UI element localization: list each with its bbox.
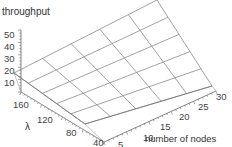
- nodes-axis-tick: [176, 109, 177, 111]
- mesh-line: [43, 58, 111, 116]
- lambda-axis-tick: [79, 127, 80, 129]
- lambda-axis-tick: [34, 100, 35, 102]
- lambda-tick: 120: [37, 115, 53, 125]
- mesh-line: [128, 15, 186, 94]
- surface-edge: [85, 86, 212, 124]
- nodes-axis-tick: [140, 126, 141, 128]
- nodes-axis-label: number of nodes: [145, 134, 216, 144]
- z-tick: 30: [4, 54, 15, 64]
- lambda-axis-tick: [90, 134, 91, 136]
- z-tick: 50: [4, 30, 15, 40]
- lambda-tick: 80: [66, 128, 77, 138]
- lambda-axis-tick: [38, 102, 39, 104]
- lambda-axis-tick: [69, 121, 70, 123]
- floor-edge: [21, 92, 104, 142]
- lambda-axis-tick: [58, 115, 59, 117]
- nodes-tick: 15: [160, 122, 171, 132]
- nodes-axis-tick: [153, 120, 154, 122]
- nodes-axis-tick: [207, 95, 208, 97]
- z-tick: 20: [4, 66, 15, 76]
- nodes-axis-tick: [104, 142, 105, 145]
- z-tick: 40: [4, 42, 15, 52]
- lambda-axis-tick: [61, 117, 62, 120]
- lambda-axis-tick: [55, 113, 56, 115]
- nodes-axis-tick: [212, 93, 213, 95]
- lambda-axis-tick: [51, 111, 52, 113]
- mesh-line: [100, 29, 161, 101]
- nodes-axis-tick: [158, 118, 159, 120]
- nodes-tick: 30: [216, 92, 227, 102]
- nodes-axis-tick: [185, 105, 186, 107]
- z-axis-label: throughput: [2, 7, 50, 17]
- nodes-tick: 5: [118, 140, 123, 147]
- nodes-axis-tick: [113, 138, 114, 140]
- lambda-axis-tick: [41, 105, 42, 108]
- mesh-line: [157, 0, 212, 86]
- nodes-axis-tick: [162, 115, 163, 117]
- z-tick: 10: [4, 78, 15, 88]
- nodes-axis-tick: [126, 132, 127, 135]
- lambda-axis-tick: [82, 130, 83, 133]
- lambda-tick: 40: [93, 138, 104, 147]
- lambda-axis-tick: [86, 132, 87, 134]
- lambda-tick: 160: [13, 100, 29, 110]
- nodes-axis-tick: [131, 130, 132, 132]
- nodes-axis-tick: [144, 124, 145, 126]
- nodes-tick: 25: [198, 102, 209, 112]
- nodes-axis-tick: [122, 134, 123, 136]
- nodes-axis-tick: [171, 111, 172, 114]
- nodes-axis-tick: [108, 140, 109, 142]
- lambda-axis-tick: [45, 107, 46, 109]
- lambda-axis-label: λ: [25, 122, 30, 132]
- lambda-axis-tick: [48, 109, 49, 111]
- nodes-axis-tick: [135, 128, 136, 130]
- nodes-axis-tick: [194, 101, 195, 104]
- surface-plot: [0, 0, 232, 147]
- nodes-axis-tick: [203, 97, 204, 99]
- nodes-axis-tick: [189, 103, 190, 105]
- lambda-axis-tick: [24, 94, 25, 96]
- nodes-axis-tick: [180, 107, 181, 109]
- nodes-tick: 20: [179, 112, 190, 122]
- lambda-axis-tick: [20, 92, 21, 95]
- lambda-axis-tick: [65, 119, 66, 121]
- nodes-axis-tick: [149, 122, 150, 125]
- lambda-axis-tick: [27, 96, 28, 98]
- lambda-axis-tick: [72, 123, 73, 125]
- mesh-line: [28, 17, 168, 83]
- lambda-axis-tick: [31, 98, 32, 100]
- nodes-axis-tick: [167, 113, 168, 115]
- nodes-axis-tick: [117, 136, 118, 138]
